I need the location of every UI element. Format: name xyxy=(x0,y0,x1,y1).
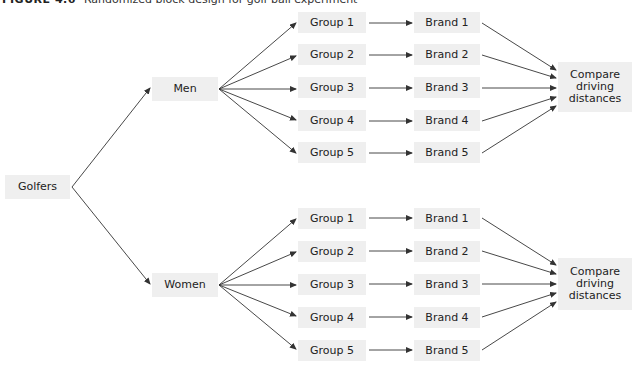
women-group-4-box: Group 4 xyxy=(298,307,366,328)
men-box: Men xyxy=(152,77,218,101)
women-brand-1-box: Brand 1 xyxy=(414,208,480,229)
men-group-4-box: Group 4 xyxy=(298,110,366,131)
women-box: Women xyxy=(152,273,218,297)
women-compare-box: Compare driving distances xyxy=(558,258,632,310)
men-brand-1-box: Brand 1 xyxy=(414,12,480,33)
women-group-2-box: Group 2 xyxy=(298,241,366,262)
arrow-golfers-women xyxy=(72,187,150,284)
arrow-golfers-men xyxy=(72,88,150,187)
women-brand-4-box: Brand 4 xyxy=(414,307,480,328)
women-group-3-box: Group 3 xyxy=(298,274,366,295)
men-compare-box: Compare driving distances xyxy=(558,62,632,112)
men-group-2-box: Group 2 xyxy=(298,44,366,65)
men-brand-4-box: Brand 4 xyxy=(414,110,480,131)
men-group-5-box: Group 5 xyxy=(298,142,366,163)
men-brand-2-box: Brand 2 xyxy=(414,44,480,65)
men-brand-3-box: Brand 3 xyxy=(414,77,480,98)
women-group-5-box: Group 5 xyxy=(298,340,366,361)
women-group-1-box: Group 1 xyxy=(298,208,366,229)
men-group-3-box: Group 3 xyxy=(298,77,366,98)
women-brand-3-box: Brand 3 xyxy=(414,274,480,295)
women-brand-2-box: Brand 2 xyxy=(414,241,480,262)
men-brand-5-box: Brand 5 xyxy=(414,142,480,163)
men-group-1-box: Group 1 xyxy=(298,12,366,33)
women-brand-5-box: Brand 5 xyxy=(414,340,480,361)
golfers-box: Golfers xyxy=(5,175,70,199)
